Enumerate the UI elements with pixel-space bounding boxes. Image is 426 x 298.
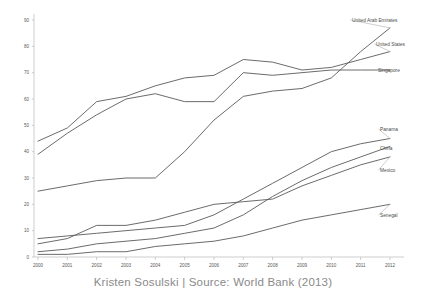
y-tick-label: 40	[24, 149, 30, 154]
x-axis: 2000200120022003200420052006200720082009…	[33, 257, 404, 268]
series-label: Senegal	[380, 213, 398, 218]
x-tick-label: 2010	[326, 263, 337, 268]
x-tick-label: 2005	[180, 263, 191, 268]
x-tick-label: 2012	[385, 263, 396, 268]
series-line	[38, 204, 390, 254]
y-tick-label: 80	[24, 44, 30, 49]
y-tick-label: 20	[24, 202, 30, 207]
series-label: Panama	[380, 127, 398, 132]
line-chart: 0102030405060708090 20002001200220032004…	[0, 0, 426, 298]
chart-caption: Kristen Sosulski | Source: World Bank (2…	[0, 276, 426, 288]
y-tick-label: 70	[24, 70, 30, 75]
series-layer	[38, 28, 390, 254]
y-axis: 0102030405060708090	[24, 14, 34, 260]
x-tick-label: 2000	[33, 263, 44, 268]
x-tick-label: 2001	[62, 263, 73, 268]
series-line	[38, 52, 390, 142]
y-tick-label: 50	[24, 123, 30, 128]
series-line	[38, 70, 390, 154]
x-tick-label: 2002	[92, 263, 103, 268]
x-tick-label: 2008	[268, 263, 279, 268]
series-line	[38, 146, 390, 251]
y-tick-label: 10	[24, 228, 30, 233]
series-line	[38, 139, 390, 239]
x-tick-label: 2009	[297, 263, 308, 268]
series-line	[38, 157, 390, 244]
series-label: Mexico	[380, 168, 396, 173]
y-tick-label: 90	[24, 18, 30, 23]
x-tick-label: 2006	[209, 263, 220, 268]
series-label: Singapore	[378, 68, 400, 73]
x-tick-label: 2003	[121, 263, 132, 268]
series-label: United Arab Emirates	[352, 18, 398, 23]
y-tick-label: 0	[26, 255, 29, 260]
series-labels: United Arab EmiratesUnited StatesSingapo…	[351, 18, 406, 218]
series-line	[38, 28, 390, 191]
chart-canvas: 0102030405060708090 20002001200220032004…	[0, 0, 426, 298]
x-tick-label: 2004	[150, 263, 161, 268]
x-tick-label: 2007	[238, 263, 249, 268]
x-tick-label: 2011	[356, 263, 366, 268]
y-tick-label: 60	[24, 97, 30, 102]
y-tick-label: 30	[24, 176, 30, 181]
series-label: United States	[376, 42, 405, 47]
series-label: China	[380, 146, 393, 151]
